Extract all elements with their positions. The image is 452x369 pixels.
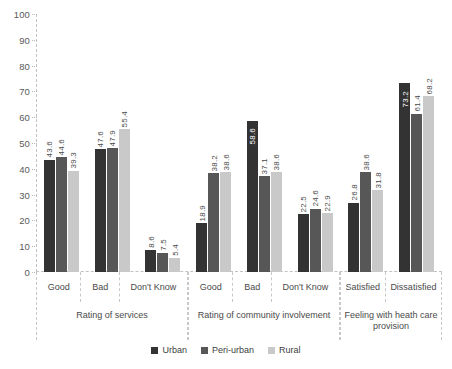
bar-rect[interactable] [145,250,156,272]
category-section: GoodBadDon't KnowRating of community inv… [188,272,340,340]
section-title: Feeling with heath care provision [341,302,441,340]
bar-urban[interactable]: 58.6 [247,14,258,272]
bar-value-label: 22.9 [323,195,332,211]
y-tick-mark [32,91,37,92]
y-tick-mark [32,195,37,196]
bar-rural[interactable]: 68.2 [423,14,434,272]
bar-rural[interactable]: 5.4 [169,14,180,272]
legend-label: Rural [279,345,301,355]
bar-peri[interactable]: 7.5 [157,14,168,272]
bar-rect[interactable] [68,171,79,272]
bar-value-label: 47.6 [96,131,105,147]
bar-rect[interactable] [271,172,282,272]
y-tick-label: 90 [19,34,30,45]
bar-urban[interactable]: 22.5 [298,14,309,272]
bar-rect[interactable] [107,148,118,272]
bar-urban[interactable]: 8.6 [145,14,156,272]
legend-swatch-icon [268,347,275,354]
bar-rural[interactable]: 31.8 [372,14,383,272]
bar-rect[interactable] [423,96,434,272]
bar-rect[interactable] [95,149,106,272]
legend-swatch-icon [201,347,208,354]
category-label: Bad [81,272,119,302]
legend-item[interactable]: Rural [268,345,301,355]
bar-rural[interactable]: 39.3 [68,14,79,272]
bar-group: 18.938.238.6 [188,14,239,272]
y-tick-label: 80 [19,60,30,71]
section-title: Rating of services [37,302,187,340]
bar-group: 58.637.138.6 [239,14,290,272]
bar-peri[interactable]: 44.6 [56,14,67,272]
bar-rural[interactable]: 38.6 [220,14,231,272]
bar-group: 47.647.955.4 [87,14,138,272]
category-label: Don't Know [120,272,187,302]
category-section: GoodBadDon't KnowRating of services [36,272,188,340]
bar-group: 43.644.639.3 [36,14,87,272]
category-label: Good [37,272,81,302]
bar-rect[interactable] [360,172,371,272]
y-tick-label: 60 [19,112,30,123]
plot-area: 43.644.639.347.647.955.48.67.55.418.938.… [36,14,442,272]
bar-rect[interactable] [169,258,180,272]
bar-rect[interactable] [44,160,55,272]
bar-value-label: 38.6 [361,154,370,170]
bar-peri[interactable]: 24.6 [310,14,321,272]
section-title: Rating of community involvement [189,302,339,340]
bar-rect[interactable] [310,209,321,272]
y-tick-label: 70 [19,86,30,97]
bar-peri[interactable]: 47.9 [107,14,118,272]
bar-rect[interactable] [348,203,359,272]
bar-peri[interactable]: 38.2 [208,14,219,272]
bar-rect[interactable] [208,173,219,272]
bar-rural[interactable]: 22.9 [322,14,333,272]
category-label: Good [189,272,233,302]
bar-value-label: 8.6 [146,236,155,248]
bar-urban[interactable]: 26.8 [348,14,359,272]
bar-rect[interactable] [157,253,168,272]
bar-rect[interactable] [259,176,270,272]
bar-rect[interactable] [196,223,207,272]
y-tick-mark [32,272,37,273]
bar-rural[interactable]: 38.6 [271,14,282,272]
category-section: SatisfiedDissatisfiedFeeling with heath … [340,272,442,340]
bar-section: 43.644.639.347.647.955.48.67.55.4 [36,14,188,272]
bar-rural[interactable]: 55.4 [119,14,130,272]
y-tick-label: 0 [25,267,30,278]
bar-rect[interactable] [119,129,130,272]
y-tick-mark [32,14,37,15]
bar-urban[interactable]: 47.6 [95,14,106,272]
bar-peri[interactable]: 61.4 [411,14,422,272]
bar-peri[interactable]: 37.1 [259,14,270,272]
bar-rect[interactable] [322,213,333,272]
bar-urban[interactable]: 73.2 [399,14,410,272]
bar-rect[interactable] [399,83,410,272]
bar-rect[interactable] [298,214,309,272]
legend-item[interactable]: Urban [151,345,187,355]
y-tick-label: 50 [19,138,30,149]
bar-rect[interactable] [220,172,231,272]
legend-item[interactable]: Peri-urban [201,345,254,355]
bar-value-label: 73.2 [400,91,409,107]
bar-value-label: 37.1 [260,158,269,174]
y-tick-mark [32,220,37,221]
bar-value-label: 18.9 [197,205,206,221]
y-tick-label: 20 [19,215,30,226]
bar-rect[interactable] [56,157,67,272]
y-tick-mark [32,40,37,41]
bar-urban[interactable]: 43.6 [44,14,55,272]
bar-value-label: 43.6 [45,141,54,157]
bar-urban[interactable]: 18.9 [196,14,207,272]
category-axis: GoodBadDon't KnowRating of servicesGoodB… [36,272,442,340]
y-tick-mark [32,143,37,144]
y-tick-mark [32,66,37,67]
bar-rect[interactable] [411,114,422,272]
legend-label: Urban [162,345,187,355]
bar-value-label: 68.2 [424,78,433,94]
bar-rect[interactable] [372,190,383,272]
bar-value-label: 31.8 [373,172,382,188]
y-tick-label: 100 [14,9,30,20]
y-tick-label: 40 [19,163,30,174]
bar-peri[interactable]: 38.6 [360,14,371,272]
bar-value-label: 58.6 [248,128,257,144]
bar-value-label: 61.4 [412,95,421,111]
